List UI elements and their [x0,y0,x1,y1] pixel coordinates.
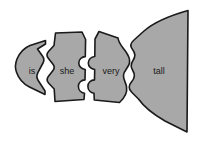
diagram-canvas: is she very tall [0,0,200,141]
puzzle-diagram: is she very tall [0,0,200,141]
